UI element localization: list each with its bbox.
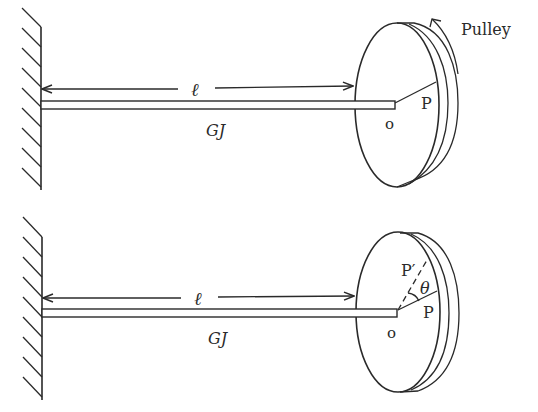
length-label: ℓ: [191, 79, 199, 100]
fixed-wall-icon: [23, 217, 42, 400]
bottom-panel: ℓ GJ o P P′ θ: [23, 217, 459, 400]
length-label: ℓ: [194, 288, 202, 309]
rigidity-label: GJ: [208, 329, 229, 348]
center-label: o: [387, 324, 396, 342]
torsion-pulley-diagram: ℓ GJ o P Pulley: [0, 0, 538, 412]
center-label: o: [385, 115, 394, 133]
point-label: P: [423, 303, 434, 322]
rigidity-label: GJ: [206, 121, 227, 140]
pulley-label: Pulley: [461, 20, 511, 39]
rotated-point-label: P′: [401, 261, 416, 280]
angle-arc: [408, 293, 419, 301]
fixed-wall-icon: [22, 8, 41, 190]
point-label: P: [421, 94, 432, 113]
shaft: [42, 309, 397, 317]
shaft: [41, 101, 395, 109]
angle-label: θ: [420, 279, 430, 298]
top-panel: ℓ GJ o P Pulley: [22, 8, 511, 190]
